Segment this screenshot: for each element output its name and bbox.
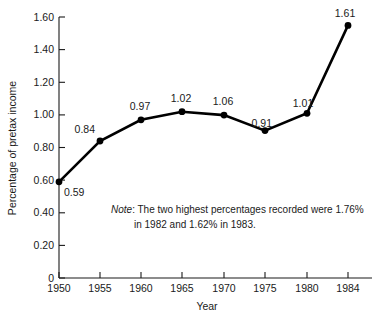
x-tick-label-4: 1970 [212,282,236,294]
data-label-1980: 1.01 [293,97,314,109]
y-tick-label-2: 0.40 [34,206,55,218]
data-point-1950 [56,178,63,185]
note-line-1: Note: The two highest percentages record… [111,204,364,215]
data-label-1975: 0.91 [252,117,273,129]
data-point-1955 [97,138,104,145]
x-axis-ticks [59,272,348,278]
x-axis-title: Year [196,300,218,312]
x-tick-label-2: 1960 [129,282,153,294]
y-tick-label-5: 1.00 [34,108,55,120]
x-tick-label-6: 1980 [295,282,319,294]
y-tick-label-4: 0.80 [34,141,55,153]
note-body-1: : The two highest percentages recorded w… [132,204,364,215]
chart-note: Note: The two highest percentages record… [111,204,364,230]
y-axis-tick-labels: 0 0.20 0.40 0.60 0.80 1.00 1.20 1.40 1.6… [34,11,55,284]
data-point-1960 [138,116,145,123]
y-axis-ticks [59,17,65,278]
x-axis-tick-labels: 1950 1955 1960 1965 1970 1975 1980 1984 [47,282,360,294]
data-label-1960: 0.97 [130,100,151,112]
y-tick-label-7: 1.40 [34,43,55,55]
x-tick-label-7: 1984 [336,282,360,294]
data-point-1965 [179,108,186,115]
x-tick-label-3: 1965 [170,282,194,294]
data-label-1950: 0.59 [64,186,85,198]
y-tick-label-3: 0.60 [34,174,55,186]
data-label-1965: 1.02 [171,92,192,104]
note-line-2: in 1982 and 1.62% in 1983. [134,219,256,230]
y-tick-label-8: 1.60 [34,11,55,23]
note-emphasis: Note [111,204,133,215]
data-label-1984: 1.61 [335,7,356,19]
x-tick-label-1: 1955 [88,282,112,294]
y-tick-label-6: 1.20 [34,76,55,88]
x-tick-label-0: 1950 [47,282,71,294]
data-label-1970: 1.06 [213,95,234,107]
chart-container: 0 0.20 0.40 0.60 0.80 1.00 1.20 1.40 1.6… [0,0,379,320]
x-tick-label-5: 1975 [253,282,277,294]
data-point-1984 [345,22,352,29]
data-point-labels: 0.59 0.84 0.97 1.02 1.06 0.91 1.01 1.61 [64,7,355,198]
y-axis-title: Percentage of pretax income [6,81,18,215]
data-point-1980 [304,110,311,117]
y-tick-label-1: 0.20 [34,239,55,251]
data-point-1970 [221,112,228,119]
data-label-1955: 0.84 [75,123,96,135]
line-chart: 0 0.20 0.40 0.60 0.80 1.00 1.20 1.40 1.6… [0,0,379,320]
